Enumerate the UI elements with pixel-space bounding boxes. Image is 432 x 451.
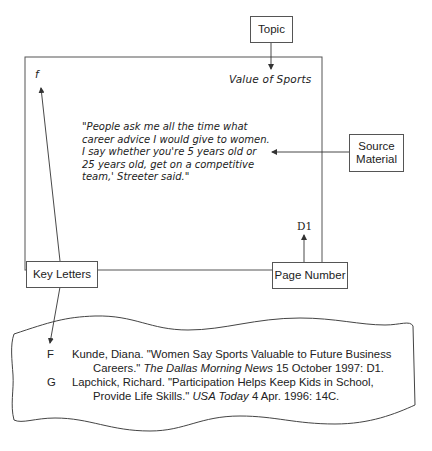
key-letters-callout: Key Letters xyxy=(26,261,98,288)
card-topic: Value of Sports xyxy=(229,73,311,85)
entry-line-2: Careers." The Dallas Morning News 15 Oct… xyxy=(47,361,391,375)
entry-line-1: Lapchick, Richard. "Participation Helps … xyxy=(47,375,391,389)
entry-key: F xyxy=(47,347,54,361)
source-material-label-line2: Material xyxy=(356,153,397,166)
bibliography-entry: G Lapchick, Richard. "Participation Help… xyxy=(47,375,391,403)
entry-publication: The Dallas Morning News xyxy=(143,362,272,374)
bibliography: F Kunde, Diana. "Women Say Sports Valuab… xyxy=(47,347,391,403)
page-number-callout: Page Number xyxy=(272,262,348,289)
card-key-letter: f xyxy=(35,68,39,80)
page-number-label: Page Number xyxy=(275,269,346,282)
topic-callout: Topic xyxy=(250,16,293,43)
entry-key: G xyxy=(47,375,56,389)
card-quote: "People ask me all the time what career … xyxy=(82,121,302,184)
entry-publication: USA Today xyxy=(192,390,248,402)
key-letters-label: Key Letters xyxy=(33,268,91,281)
card-page-number: D1 xyxy=(297,220,313,232)
key-letters-arrow-up xyxy=(41,88,60,261)
entry-title-text: Careers." xyxy=(93,362,143,374)
entry-title-text: Provide Life Skills." xyxy=(93,390,192,402)
source-material-label-line1: Source xyxy=(358,140,394,153)
topic-callout-label: Topic xyxy=(258,23,285,36)
entry-date-page: 15 October 1997: D1. xyxy=(273,362,384,374)
entry-line-2: Provide Life Skills." USA Today 4 Apr. 1… xyxy=(47,389,391,403)
quote-line: "People ask me all the time what xyxy=(82,121,302,134)
source-material-callout: Source Material xyxy=(349,134,404,172)
quote-line: team,' Streeter said." xyxy=(82,171,302,184)
entry-line-1: Kunde, Diana. "Women Say Sports Valuable… xyxy=(47,347,391,361)
quote-line: I say whether you're 5 years old or xyxy=(82,146,302,159)
key-letters-arrow-down xyxy=(50,287,60,343)
quote-line: 25 years old, get on a competitive xyxy=(82,159,302,172)
quote-line: career advice I would give to women. xyxy=(82,134,302,147)
bibliography-entry: F Kunde, Diana. "Women Say Sports Valuab… xyxy=(47,347,391,375)
entry-date-page: 4 Apr. 1996: 14C. xyxy=(249,390,339,402)
